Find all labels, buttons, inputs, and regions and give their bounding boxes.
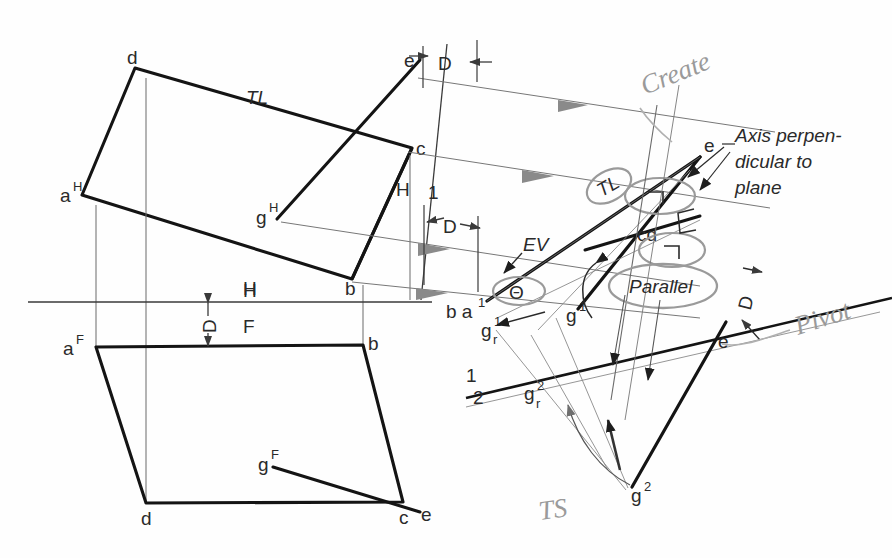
label-b-a1: b a xyxy=(446,301,473,322)
label-gr2: g xyxy=(524,383,535,404)
label-fold-1-aux2: 1 xyxy=(466,365,477,386)
label-fold-f: F xyxy=(243,316,255,337)
label-g2: g xyxy=(631,485,642,506)
label-gr1-subscript: r xyxy=(493,332,498,347)
label-gr1-superscript: 1 xyxy=(494,314,501,329)
label-fold-h-front: H xyxy=(243,278,257,299)
label-depth-aux1-top: D xyxy=(438,53,452,74)
label-a-top-superscript: H xyxy=(73,179,82,194)
drawing-sheet: a H d b c e g H TL H F D a F b d c e g F… xyxy=(0,0,892,558)
label-a-front: a xyxy=(63,338,74,359)
label-g1: g xyxy=(566,305,577,326)
axis-note-line-1: Axis perpen- xyxy=(734,125,842,146)
label-a-front-superscript: F xyxy=(76,332,84,347)
label-e-aux1: e xyxy=(704,135,715,156)
label-g2-superscript: 2 xyxy=(644,479,651,494)
label-b-top: b xyxy=(345,278,356,299)
label-gr1: g xyxy=(481,320,492,341)
label-a-top: a xyxy=(60,185,71,206)
sheet-background xyxy=(0,0,892,558)
label-depth-front: D xyxy=(199,319,220,333)
label-g-top-superscript: H xyxy=(269,200,278,215)
axis-note-line-2: dicular to xyxy=(735,151,812,172)
label-e-top: e xyxy=(404,50,415,71)
label-c-front: c xyxy=(399,507,409,528)
label-e-aux2: e xyxy=(718,331,729,352)
label-gr2-superscript: 2 xyxy=(537,378,544,393)
label-fold-1-aux1: 1 xyxy=(428,182,439,203)
label-d-front: d xyxy=(141,508,152,529)
label-fold-h-aux1: H xyxy=(396,179,410,200)
label-c-top: c xyxy=(416,138,426,159)
label-g-front-superscript: F xyxy=(271,447,279,462)
axis-note-line-3: plane xyxy=(734,177,782,198)
label-tl-top: TL xyxy=(246,87,268,108)
label-g-front: g xyxy=(258,454,269,475)
label-b-front: b xyxy=(368,333,379,354)
annotation-ts: TS xyxy=(537,492,570,526)
label-g-top: g xyxy=(256,207,267,228)
label-parallel: Parallel xyxy=(629,276,693,297)
label-depth-aux1-bottom: D xyxy=(443,216,457,237)
label-theta: Θ xyxy=(509,282,524,303)
label-d-top: d xyxy=(127,47,138,68)
label-e-front: e xyxy=(421,504,432,525)
label-gr2-subscript: r xyxy=(536,396,541,411)
label-ev: EV xyxy=(523,234,551,255)
descriptive-geometry-svg: a H d b c e g H TL H F D a F b d c e g F… xyxy=(0,0,892,558)
label-b-a1-superscript: 1 xyxy=(478,295,485,310)
label-fold-2-aux2: 2 xyxy=(473,387,484,408)
